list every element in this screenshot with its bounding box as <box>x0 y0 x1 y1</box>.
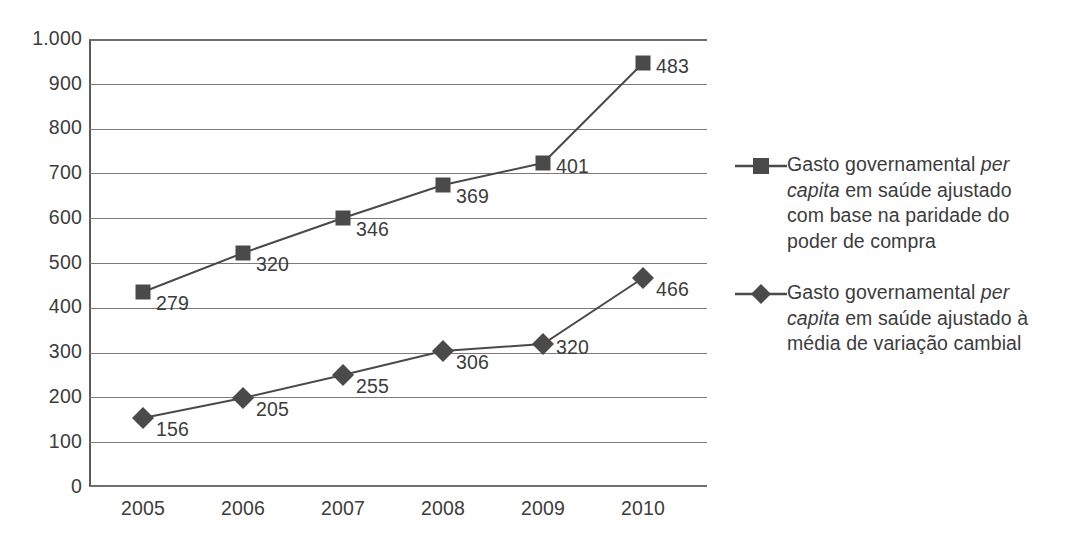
legend-text-part: Gasto governamental <box>787 153 981 175</box>
diamond-marker-icon <box>735 281 787 307</box>
data-label: 401 <box>556 157 589 177</box>
data-label: 369 <box>456 187 489 207</box>
y-tick-label: 100 <box>0 432 82 452</box>
data-label: 156 <box>156 420 189 440</box>
legend-text-italic: per <box>981 153 1009 175</box>
data-label: 255 <box>356 377 389 397</box>
y-tick-label: 300 <box>0 342 82 362</box>
legend-text-part: em saúde ajustado à <box>840 307 1028 329</box>
legend-label-ppp: Gasto governamental percapita em saúde a… <box>787 152 1059 254</box>
y-axis: 1.000 900 800 700 600 500 400 300 200 10… <box>0 0 82 548</box>
data-point-marker <box>432 340 454 362</box>
x-tick-label: 2006 <box>203 497 283 519</box>
series-line-ppp <box>143 63 643 292</box>
y-tick-label: 400 <box>0 297 82 317</box>
y-tick-label: 0 <box>0 477 82 497</box>
data-point-marker <box>532 333 554 355</box>
data-point-marker <box>632 267 654 289</box>
data-point-marker <box>132 407 154 429</box>
data-point-marker <box>232 387 254 409</box>
legend-text-part: média de variação cambial <box>787 332 1021 354</box>
legend-entry-ppp: Gasto governamental percapita em saúde a… <box>735 152 1065 254</box>
data-label: 279 <box>156 294 189 314</box>
data-label: 205 <box>256 400 289 420</box>
data-point-marker <box>436 178 451 193</box>
data-point-marker <box>336 211 351 226</box>
y-tick-label: 900 <box>0 74 82 94</box>
x-tick-label: 2007 <box>303 497 383 519</box>
legend-text-part: poder de compra <box>787 230 936 252</box>
data-label: 320 <box>556 338 589 358</box>
legend-text-italic: per <box>981 281 1009 303</box>
data-label: 346 <box>356 220 389 240</box>
data-label: 483 <box>656 57 689 77</box>
data-point-marker <box>536 156 551 171</box>
y-tick-label: 800 <box>0 118 82 138</box>
data-point-marker <box>636 56 651 71</box>
legend-text-part: com base na paridade do <box>787 204 1009 226</box>
x-tick-label: 2005 <box>103 497 183 519</box>
legend-text-italic: capita <box>787 179 840 201</box>
y-tick-label: 700 <box>0 163 82 183</box>
line-chart-figure: 1.000 900 800 700 600 500 400 300 200 10… <box>0 0 1071 548</box>
data-label: 466 <box>656 280 689 300</box>
legend-text-italic: capita <box>787 307 840 329</box>
data-label: 320 <box>256 255 289 275</box>
data-point-marker <box>236 246 251 261</box>
y-tick-label: 1.000 <box>0 29 82 49</box>
plot-area: 279 320 346 369 401 483 156 205 255 306 … <box>89 39 707 487</box>
y-tick-label: 200 <box>0 387 82 407</box>
chart-legend: Gasto governamental percapita em saúde a… <box>735 152 1065 383</box>
data-label: 306 <box>456 353 489 373</box>
data-point-marker <box>332 364 354 386</box>
legend-label-cambial: Gasto governamental percapita em saúde a… <box>787 280 1059 357</box>
series-markers-ppp <box>136 56 651 300</box>
data-point-marker <box>136 285 151 300</box>
x-tick-label: 2009 <box>503 497 583 519</box>
x-axis: 2005 2006 2007 2008 2009 2010 <box>89 497 707 525</box>
legend-entry-cambial: Gasto governamental percapita em saúde a… <box>735 280 1065 357</box>
square-marker-icon <box>735 153 787 179</box>
x-tick-label: 2010 <box>603 497 683 519</box>
legend-text-part: em saúde ajustado <box>840 179 1012 201</box>
y-tick-label: 600 <box>0 208 82 228</box>
legend-text-part: Gasto governamental <box>787 281 981 303</box>
y-tick-label: 500 <box>0 253 82 273</box>
x-tick-label: 2008 <box>403 497 483 519</box>
